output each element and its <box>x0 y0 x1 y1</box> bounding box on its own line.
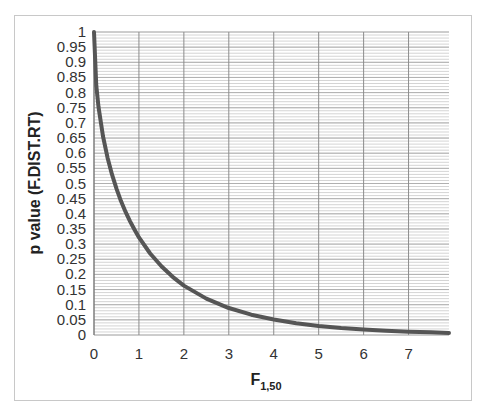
x-tick-label: 0 <box>90 345 98 362</box>
x-tick-label: 6 <box>359 345 367 362</box>
y-tick-labels: 00.050.10.150.20.250.30.350.40.450.50.55… <box>57 23 86 343</box>
y-tick-label: 0.75 <box>57 99 86 116</box>
y-tick-label: 0.4 <box>65 205 86 222</box>
major-gridlines <box>94 32 449 335</box>
x-axis-title: F1,50 <box>250 371 281 392</box>
y-tick-label: 0.7 <box>65 114 86 131</box>
x-tick-label: 3 <box>225 345 233 362</box>
y-tick-label: 0.85 <box>57 68 86 85</box>
chart: 00.050.10.150.20.250.30.350.40.450.50.55… <box>0 0 487 415</box>
y-tick-label: 0.9 <box>65 53 86 70</box>
y-tick-label: 0.3 <box>65 235 86 252</box>
y-tick-label: 0.95 <box>57 38 86 55</box>
y-tick-label: 0 <box>78 326 86 343</box>
y-axis-title: p value (F.DIST.RT) <box>26 111 43 254</box>
x-tick-label: 2 <box>180 345 188 362</box>
x-tick-label: 1 <box>135 345 143 362</box>
x-tick-label: 5 <box>315 345 323 362</box>
y-tick-label: 0.55 <box>57 159 86 176</box>
y-tick-label: 0.6 <box>65 144 86 161</box>
y-tick-label: 0.65 <box>57 129 86 146</box>
y-tick-label: 0.25 <box>57 250 86 267</box>
y-tick-label: 0.05 <box>57 311 86 328</box>
y-tick-label: 0.35 <box>57 220 86 237</box>
y-tick-label: 0.8 <box>65 84 86 101</box>
y-tick-label: 0.2 <box>65 265 86 282</box>
x-tick-label: 7 <box>404 345 412 362</box>
y-tick-label: 0.1 <box>65 296 86 313</box>
y-tick-label: 1 <box>78 23 86 40</box>
x-tick-labels: 01234567 <box>90 345 413 362</box>
x-axis-title-main: F <box>250 371 260 388</box>
x-axis-title-subscript: 1,50 <box>260 380 281 392</box>
y-tick-label: 0.15 <box>57 281 86 298</box>
y-tick-label: 0.45 <box>57 190 86 207</box>
y-tick-label: 0.5 <box>65 175 86 192</box>
x-tick-label: 4 <box>270 345 278 362</box>
